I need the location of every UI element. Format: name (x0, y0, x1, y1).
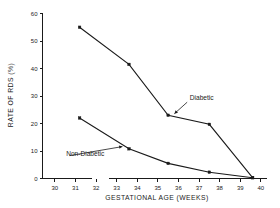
series-marker (167, 114, 170, 117)
annotation-arrow-head (119, 145, 122, 148)
series-line-non-diabetic (80, 118, 253, 178)
x-tick-label: 32 (93, 185, 100, 191)
x-axis-ticks: 3031323334353637383940 (52, 179, 265, 191)
x-tick-label: 37 (196, 185, 203, 191)
x-tick-label: 38 (216, 185, 223, 191)
x-tick-label: 30 (52, 185, 59, 191)
series-annotations-group: DiabeticNon-Diabetic (66, 94, 214, 157)
y-axis-ticks: 0102030405060 (31, 11, 43, 182)
series-marker (128, 148, 131, 151)
x-tick-label: 40 (257, 185, 264, 191)
x-tick-label: 34 (134, 185, 141, 191)
y-tick-label: 20 (31, 121, 38, 127)
x-tick-label: 36 (175, 185, 182, 191)
x-tick-label: 31 (72, 185, 79, 191)
data-series-group (78, 26, 254, 179)
x-axis-title: GESTATIONAL AGE (WEEKS) (105, 194, 209, 202)
y-tick-label: 30 (31, 93, 38, 99)
y-tick-label: 40 (31, 66, 38, 72)
y-axis-title: RATE OF RDS (%) (7, 63, 15, 127)
series-marker (208, 171, 211, 174)
series-marker (208, 123, 211, 126)
x-tick-label: 39 (237, 185, 244, 191)
annotation-label-diabetic: Diabetic (190, 94, 215, 101)
x-tick-label: 33 (113, 185, 120, 191)
series-marker (167, 162, 170, 165)
chart-figure: 0102030405060 3031323334353637383940 Dia… (0, 0, 280, 208)
series-marker (78, 117, 81, 120)
x-tick-label: 35 (154, 185, 161, 191)
y-tick-label: 0 (34, 176, 38, 182)
y-tick-label: 60 (31, 11, 38, 17)
series-marker (128, 63, 131, 66)
y-tick-label: 50 (31, 38, 38, 44)
series-marker (251, 176, 254, 179)
series-line-diabetic (80, 27, 253, 177)
annotation-label-non-diabetic: Non-Diabetic (66, 150, 105, 157)
series-marker (78, 26, 81, 29)
rds-gestational-age-line-chart: 0102030405060 3031323334353637383940 Dia… (0, 0, 280, 208)
y-tick-label: 10 (31, 148, 38, 154)
